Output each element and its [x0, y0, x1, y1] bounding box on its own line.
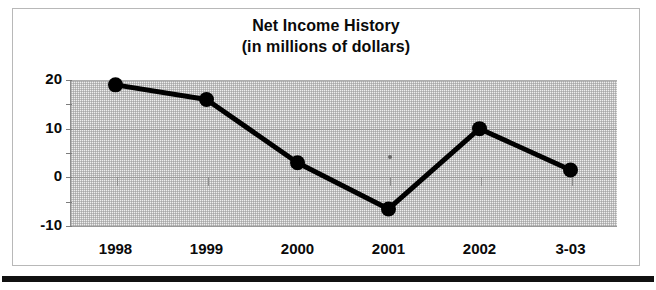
- data-point-1998: [108, 77, 123, 92]
- data-point-2001: [381, 201, 396, 216]
- page-bottom-rule: [2, 276, 654, 282]
- net-income-line: [116, 85, 571, 209]
- data-point-3-03: [563, 163, 578, 178]
- data-point-1999: [199, 92, 214, 107]
- chart-figure: Net Income History (in millions of dolla…: [12, 8, 640, 266]
- data-point-2002: [472, 121, 487, 136]
- data-point-2000: [290, 155, 305, 170]
- data-series-layer: [12, 8, 640, 266]
- scan-speckle-artifact: [388, 155, 392, 159]
